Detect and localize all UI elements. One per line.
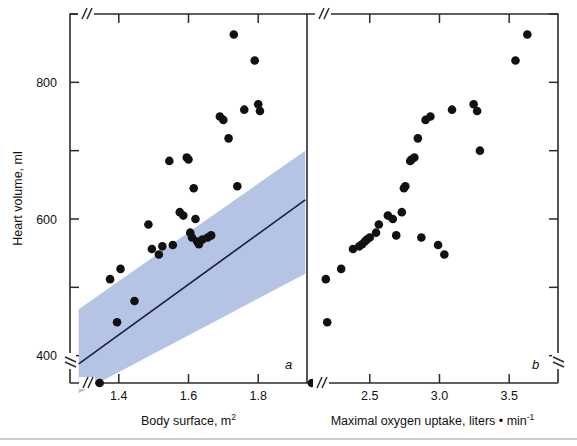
panel-a-data-point bbox=[219, 116, 228, 125]
panel-a-data-point bbox=[116, 265, 125, 274]
panel-a-data-point bbox=[158, 242, 167, 251]
figure-container: 4006008001.41.61.82.53.03.5Heart volume,… bbox=[0, 0, 577, 446]
panel-b-data-point bbox=[401, 182, 410, 191]
panel-b-x-axis-label: Maximal oxygen uptake, liters • min-1 bbox=[331, 412, 535, 428]
panel-b-x-axis-label-sup: -1 bbox=[527, 412, 535, 422]
axis-break-mark bbox=[552, 353, 564, 369]
panel-b-data-point bbox=[473, 107, 482, 116]
panel-a-data-point bbox=[184, 155, 193, 164]
panel-b-data-point bbox=[337, 265, 346, 274]
panel-a-data-point bbox=[224, 134, 233, 143]
panel-a-data-point bbox=[250, 56, 259, 65]
panel-a-data-point bbox=[165, 157, 174, 166]
panel-a-data-point bbox=[189, 184, 198, 193]
panel-b-data-point bbox=[440, 250, 449, 259]
scatter-figure: 4006008001.41.61.82.53.03.5Heart volume,… bbox=[0, 0, 577, 446]
panel-b-data-point bbox=[434, 241, 443, 250]
panel-a-data-point bbox=[113, 318, 122, 327]
y-axis-label: Heart volume, ml bbox=[11, 151, 25, 245]
panel-a-data-point bbox=[256, 107, 265, 116]
panel-a-data-point bbox=[179, 211, 188, 220]
axis-break-mark bbox=[78, 8, 94, 20]
panel-b-x-tick-label: 3.5 bbox=[500, 389, 517, 403]
panel-a-x-tick-label: 1.6 bbox=[180, 389, 197, 403]
panel-b-data-point bbox=[448, 105, 457, 114]
panel-a-x-axis-label-main: Body surface, m bbox=[141, 414, 231, 428]
panel-a-x-axis-label-sup: 2 bbox=[231, 412, 236, 422]
panel-b-data-point bbox=[398, 208, 407, 217]
panel-a-data-point bbox=[95, 379, 104, 388]
panel-a-x-tick-label: 1.8 bbox=[250, 389, 267, 403]
panel-b-data-point bbox=[392, 231, 401, 240]
panel-a-data-point bbox=[230, 30, 239, 39]
panel-a-data-point bbox=[155, 250, 164, 259]
panel-a-data-point bbox=[233, 182, 242, 191]
panel-b-x-tick-label: 2.5 bbox=[361, 389, 378, 403]
panel-a-data-point bbox=[240, 105, 249, 114]
panel-a-data-point bbox=[148, 245, 157, 254]
panel-a-data-point bbox=[106, 275, 115, 284]
panel-a-data-point bbox=[191, 215, 200, 224]
panel-a-letter: a bbox=[285, 357, 292, 372]
y-tick-label: 400 bbox=[36, 349, 57, 363]
y-tick-label: 600 bbox=[36, 213, 57, 227]
panel-b-data-point bbox=[426, 112, 435, 121]
panel-a-data-point bbox=[144, 220, 153, 229]
panel-a-data-point bbox=[207, 231, 216, 240]
panel-b-data-point bbox=[414, 134, 423, 143]
panel-b-data-point bbox=[511, 56, 520, 65]
panel-b-frame bbox=[307, 14, 558, 383]
panel-a-x-tick-label: 1.4 bbox=[110, 389, 127, 403]
panel-b-data-point bbox=[417, 233, 426, 242]
panel-b-data-point bbox=[476, 146, 485, 155]
panel-b-data-point bbox=[388, 215, 397, 224]
panel-b-data-point bbox=[375, 220, 384, 229]
y-tick-label: 800 bbox=[36, 76, 57, 90]
panel-b-data-point bbox=[372, 228, 381, 237]
axis-break-mark bbox=[313, 377, 329, 389]
panel-a-data-point bbox=[130, 297, 139, 306]
panel-b-x-axis-label-main: Maximal oxygen uptake, liters • min bbox=[331, 414, 527, 428]
panel-a-x-axis-label: Body surface, m2 bbox=[141, 412, 236, 428]
panel-b-x-tick-label: 3.0 bbox=[431, 389, 448, 403]
panel-a-data-point bbox=[169, 241, 178, 250]
axis-break-mark bbox=[64, 353, 76, 369]
panel-b-letter: b bbox=[532, 357, 539, 372]
panel-b-data-point bbox=[410, 153, 419, 162]
panel-b-data-point bbox=[323, 318, 332, 327]
panel-b-data-point bbox=[322, 275, 331, 284]
panel-b-data-point bbox=[523, 30, 532, 39]
axis-break-mark bbox=[79, 377, 95, 389]
axis-break-mark bbox=[315, 8, 331, 20]
